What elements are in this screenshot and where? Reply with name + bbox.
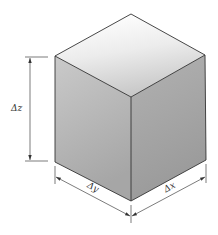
cube-svg — [0, 0, 218, 235]
dz-label: Δz — [11, 104, 22, 113]
dimension-dz — [25, 57, 48, 161]
cube-diagram: Δz Δy Δx — [0, 0, 218, 235]
